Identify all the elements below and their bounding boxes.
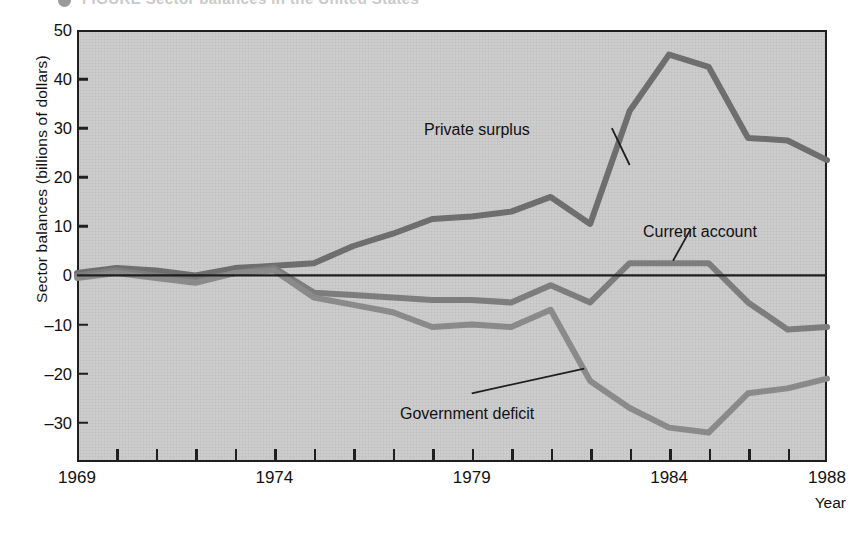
series-line-private-surplus	[77, 55, 827, 276]
y-tick-label: –20	[44, 364, 72, 383]
x-tick-label: 1979	[453, 468, 491, 488]
figure-container: FIGURE Sector balances in the United Sta…	[0, 0, 860, 539]
y-tick-labels: 50403020100–10–20–30	[0, 0, 72, 539]
x-tick-label: 1984	[650, 468, 688, 488]
chart-lines	[77, 30, 827, 462]
current-account-label: Current account	[643, 223, 757, 241]
x-axis-title: Year	[815, 494, 846, 512]
x-tick-label: 1974	[255, 468, 293, 488]
y-tick-label: 40	[54, 70, 72, 89]
y-tick-label: –10	[44, 315, 72, 334]
y-tick-label: 20	[54, 168, 72, 187]
x-tick-label: 1988	[808, 468, 846, 488]
y-tick-label: 30	[54, 119, 72, 138]
private-surplus-label: Private surplus	[424, 121, 530, 139]
figure-caption-text: FIGURE Sector balances in the United Sta…	[82, 0, 419, 7]
y-tick-label: 0	[63, 266, 72, 285]
government-deficit-label: Government deficit	[400, 405, 534, 423]
y-tick-label: –30	[44, 413, 72, 432]
government-deficit-leader-line	[472, 369, 584, 394]
figure-caption-strip: FIGURE Sector balances in the United Sta…	[0, 0, 860, 14]
y-tick-label: 10	[54, 217, 72, 236]
x-tick-label: 1969	[58, 468, 96, 488]
y-tick-label: 50	[54, 21, 72, 40]
